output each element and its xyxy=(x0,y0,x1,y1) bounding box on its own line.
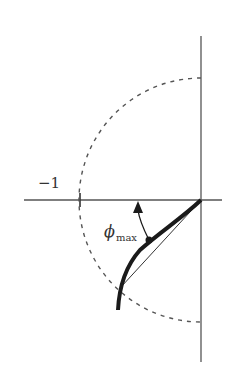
phi-max-label: ϕmax xyxy=(104,224,137,240)
angle-arc xyxy=(138,210,149,240)
nyquist-diagram xyxy=(0,0,233,375)
phi-symbol: ϕ xyxy=(104,222,115,241)
nyquist-curve xyxy=(118,200,201,310)
arrowhead-icon xyxy=(133,201,143,213)
minus-one-label: −1 xyxy=(38,176,60,191)
phi-subscript: max xyxy=(116,232,137,243)
